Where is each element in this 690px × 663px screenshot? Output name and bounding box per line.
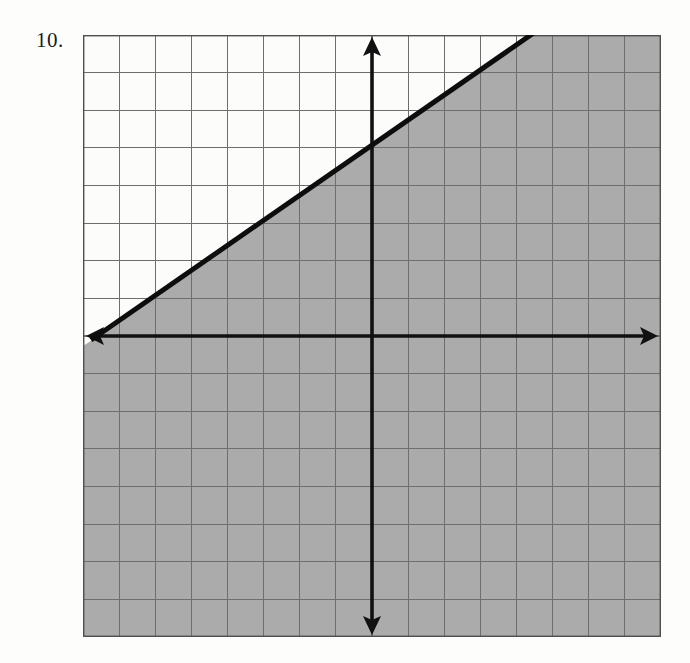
problem-number-label: 10. [36,28,64,53]
coordinate-graph-figure [83,35,661,637]
graph-svg [83,35,661,637]
